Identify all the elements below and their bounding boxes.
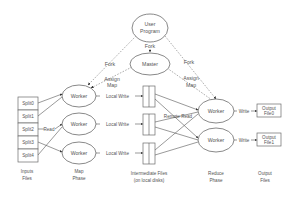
svg-text:Output: Output — [262, 106, 277, 111]
svg-text:Worker: Worker — [208, 137, 225, 143]
input-splits: Split0 Split1 Split2 Split3 Split4 — [18, 97, 38, 162]
svg-text:Worker: Worker — [208, 108, 225, 114]
svg-text:File0: File0 — [264, 111, 274, 116]
svg-text:File1: File1 — [264, 140, 274, 145]
input-files-label-2: Files — [22, 176, 32, 181]
svg-text:Worker: Worker — [71, 150, 88, 156]
input-files-label-1: Inputs — [21, 169, 34, 174]
map-worker-1: Worker — [62, 113, 96, 135]
remote-read-edges — [155, 94, 198, 155]
user-program-label-1: User — [145, 21, 156, 27]
local-write-label-1: Local Write — [106, 122, 129, 127]
master-node: Master — [130, 53, 170, 75]
map-phase-label-1: Map — [75, 169, 84, 174]
mapreduce-diagram: User Program Fork Master Fork Assign Map… — [0, 0, 290, 197]
local-write-label-0: Local Write — [106, 94, 129, 99]
write-edges — [234, 111, 257, 140]
intermediate-file-1 — [143, 114, 155, 135]
reduce-worker-0: Worker — [198, 99, 234, 123]
split-label-3: Split3 — [22, 140, 34, 145]
fork-edge-right — [165, 36, 216, 99]
split-label-0: Split0 — [22, 101, 34, 106]
svg-text:Worker: Worker — [71, 93, 88, 99]
output-file-0: Output File0 — [257, 104, 281, 117]
assign-reduce-label-2: Map — [186, 82, 196, 88]
reduce-worker-1: Worker — [198, 128, 234, 152]
output-files-label-2: Files — [260, 178, 270, 183]
map-worker-0: Worker — [62, 85, 96, 107]
intermediate-file-0 — [143, 86, 155, 107]
reduce-phase-label-1: Reduce — [208, 171, 224, 176]
fork-master-label: Fork — [145, 43, 156, 49]
split-label-2: Split2 — [22, 127, 34, 132]
svg-text:Worker: Worker — [71, 121, 88, 127]
phase-labels: Inputs Files Map Phase Intermediate File… — [21, 169, 273, 183]
assign-reduce-label-1: Assign — [183, 75, 199, 81]
fork-right-label: Fork — [184, 59, 195, 65]
write-label-0: Write — [239, 109, 250, 114]
intermediate-files-label-1: Intermediate Files — [131, 171, 168, 176]
write-label-1: Write — [239, 138, 250, 143]
reduce-phase-label-2: Phase — [209, 178, 222, 183]
master-label: Master — [142, 61, 158, 67]
assign-map-left-label-2: Map — [107, 82, 117, 88]
intermediate-file-2 — [143, 143, 155, 164]
svg-text:Output: Output — [262, 135, 277, 140]
user-program-node: User Program — [132, 14, 168, 42]
fork-left-label: Fork — [105, 61, 116, 67]
output-files-label-1: Output — [258, 171, 273, 176]
output-file-1: Output File1 — [257, 133, 281, 146]
read-label: Read — [44, 127, 55, 132]
user-program-label-2: Program — [140, 28, 160, 34]
local-write-label-2: Local Write — [106, 151, 129, 156]
read-edges — [38, 94, 62, 155]
remote-read-label: Remote Read — [164, 114, 193, 119]
map-worker-2: Worker — [62, 142, 96, 164]
split-label-4: Split4 — [22, 153, 34, 158]
split-label-1: Split1 — [22, 114, 34, 119]
map-phase-label-2: Phase — [72, 176, 85, 181]
intermediate-files-label-2: (on local disks) — [134, 178, 165, 183]
